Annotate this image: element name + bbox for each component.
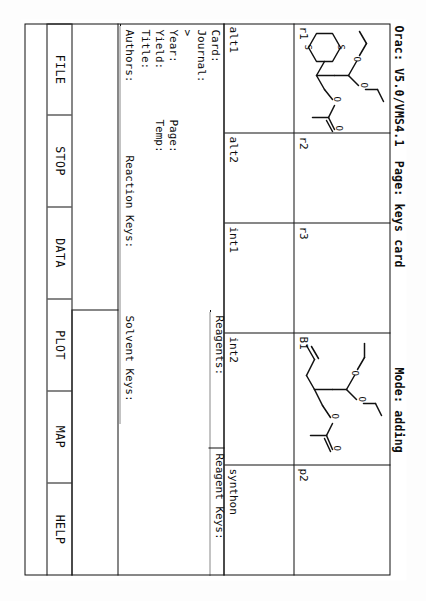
field-label-reagents[interactable]: Reagents:	[212, 316, 224, 376]
svg-text:O: O	[331, 446, 341, 451]
orac-terminal-screen: Orac: V5.0/VMS4.1 Page: keys card Mode: …	[20, 20, 406, 581]
rotated-screen-wrapper: Orac: V5.0/VMS4.1 Page: keys card Mode: …	[20, 20, 406, 581]
menu-label-data: DATA	[53, 238, 65, 268]
menu-item-help[interactable]: HELP	[47, 484, 71, 576]
structure-cell-r1[interactable]: S S O O	[294, 24, 390, 134]
cell-corner-label-b1: B1	[296, 337, 308, 350]
field-label-solvent-keys[interactable]: Solvent Keys:	[122, 316, 134, 402]
field-label-reagent-keys[interactable]: Reagent Keys:	[212, 454, 224, 540]
rule-solvent-left	[72, 310, 118, 311]
field-label-journal[interactable]: Journal:	[194, 30, 206, 83]
field-label-year[interactable]: Year:	[166, 30, 178, 63]
dotted-rule-reagents	[209, 310, 210, 576]
label-int1: int1	[226, 227, 238, 254]
menu-label-plot: PLOT	[53, 330, 65, 360]
menu-label-stop: STOP	[53, 146, 65, 176]
field-label-page[interactable]: Page:	[166, 120, 178, 153]
structure-drawing-b1: O O O O	[294, 334, 390, 466]
structure-cell-b1[interactable]: O O O O	[294, 334, 390, 466]
record-data-panel: Card: Journal: > Year: Yield: Title: Pag…	[72, 24, 224, 576]
svg-text:S: S	[335, 45, 345, 50]
svg-text:O: O	[358, 83, 368, 88]
label-alt1: alt1	[226, 27, 238, 54]
field-label-title[interactable]: Title:	[138, 30, 150, 70]
label-row: alt1 alt2 int1 int2 synthon	[224, 24, 294, 576]
menu-item-data[interactable]: DATA	[47, 208, 71, 300]
svg-text:O: O	[333, 126, 343, 131]
field-label-yield[interactable]: Yield:	[152, 30, 164, 70]
structure-row: S S O O	[294, 24, 390, 576]
svg-text:O: O	[331, 97, 341, 102]
structure-cell-r3[interactable]: r3	[294, 224, 390, 334]
menu-item-stop[interactable]: STOP	[47, 116, 71, 208]
dotted-rule-authors	[119, 24, 120, 424]
field-label-reaction-keys[interactable]: Reaction Keys:	[122, 156, 134, 249]
svg-text:S: S	[302, 45, 312, 50]
field-label-temp[interactable]: Temp:	[152, 120, 164, 153]
menu-label-help: HELP	[53, 515, 65, 545]
cell-corner-label-r3: r3	[296, 227, 308, 240]
svg-text:O: O	[356, 397, 366, 402]
menu-item-map[interactable]: MAP	[47, 392, 71, 484]
scanned-terminal-screenshot: Orac: V5.0/VMS4.1 Page: keys card Mode: …	[0, 0, 426, 601]
command-entry-strip[interactable]	[24, 24, 46, 576]
cell-corner-label-r2: r2	[296, 137, 308, 150]
label-cell-alt1[interactable]: alt1	[224, 24, 294, 134]
menu-item-file[interactable]: FILE	[47, 24, 71, 116]
svg-text:O: O	[351, 57, 361, 62]
label-synthon: synthon	[226, 469, 238, 515]
menu-bar: FILE STOP DATA PLOT MAP HELP	[46, 24, 72, 576]
cell-corner-label-p2: p2	[296, 469, 308, 482]
rule-keys-divider	[117, 24, 118, 576]
label-int2: int2	[226, 337, 238, 364]
structure-cell-p2[interactable]: p2	[294, 466, 390, 576]
menu-label-map: MAP	[53, 426, 65, 448]
label-cell-alt2[interactable]: alt2	[224, 134, 294, 224]
label-cell-int1[interactable]: int1	[224, 224, 294, 334]
label-cell-int2[interactable]: int2	[224, 334, 294, 466]
menu-item-plot[interactable]: PLOT	[47, 300, 71, 392]
field-label-card[interactable]: Card:	[208, 30, 220, 63]
rule-reagentkeys-left	[208, 448, 224, 449]
svg-text:O: O	[349, 371, 359, 376]
field-label-authors[interactable]: Authors:	[122, 30, 134, 83]
label-alt2: alt2	[226, 137, 238, 164]
label-cell-synthon[interactable]: synthon	[224, 466, 294, 576]
menu-label-file: FILE	[53, 55, 65, 85]
svg-text:O: O	[329, 414, 339, 419]
structure-cell-r2[interactable]: r2	[294, 134, 390, 224]
field-prompt-caret[interactable]: >	[180, 30, 192, 37]
title-bar: Orac: V5.0/VMS4.1 Page: keys card Mode: …	[392, 26, 404, 453]
structure-drawing-r1: S S O O	[294, 24, 390, 134]
cell-corner-label-r1: r1	[296, 27, 308, 40]
